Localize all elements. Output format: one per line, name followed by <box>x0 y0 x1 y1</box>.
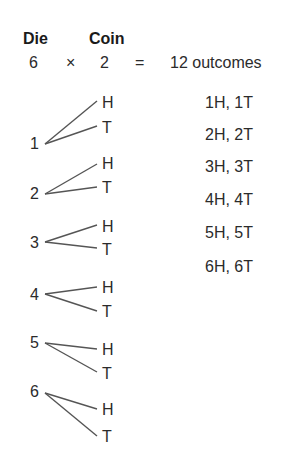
die-face-6: 6 <box>30 384 39 400</box>
coin-face-h: H <box>102 95 114 111</box>
die-face-4: 4 <box>30 287 39 303</box>
coin-face-h: H <box>102 219 114 235</box>
coin-face-t: T <box>102 429 112 445</box>
die-face-2: 2 <box>30 186 39 202</box>
coin-face-t: T <box>102 366 112 382</box>
coin-face-t: T <box>102 180 112 196</box>
outcome-row: 1H, 1T <box>205 95 253 111</box>
coin-face-h: H <box>102 342 114 358</box>
coin-face-t: T <box>102 242 112 258</box>
die-face-1: 1 <box>30 136 39 152</box>
outcome-row: 5H, 5T <box>205 225 253 241</box>
outcome-row: 6H, 6T <box>205 259 253 275</box>
coin-face-t: T <box>102 304 112 320</box>
die-face-5: 5 <box>30 335 39 351</box>
die-face-3: 3 <box>30 235 39 251</box>
outcome-row: 4H, 4T <box>205 192 253 208</box>
outcome-row: 3H, 3T <box>205 159 253 175</box>
coin-face-h: H <box>102 156 114 172</box>
coin-face-h: H <box>102 280 114 296</box>
coin-face-t: T <box>102 120 112 136</box>
outcome-row: 2H, 2T <box>205 127 253 143</box>
coin-face-h: H <box>102 402 114 418</box>
